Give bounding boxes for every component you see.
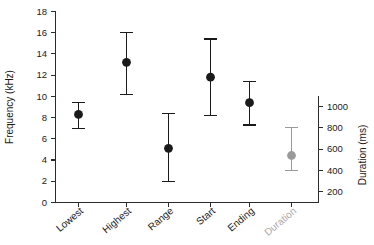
- right-tick-label-800: 800: [327, 122, 343, 133]
- left-tick-label-4: 4: [42, 154, 47, 165]
- chart-figure: 0 2 4 6 8 10 12 14 16 18 Frequency (kHz)…: [0, 0, 374, 245]
- right-tick-label-400: 400: [327, 165, 343, 176]
- left-axis-title: Frequency (kHz): [4, 70, 15, 144]
- marker-dot: [122, 58, 131, 67]
- left-tick-label-14: 14: [36, 48, 47, 59]
- left-tick-label-18: 18: [36, 6, 47, 17]
- left-tick-label-12: 12: [36, 69, 47, 80]
- right-axis-title: Duration (ms): [357, 125, 368, 186]
- left-tick-label-10: 10: [36, 91, 47, 102]
- marker-dot: [164, 144, 173, 153]
- left-tick-label-8: 8: [42, 112, 47, 123]
- right-tick-label-1000: 1000: [327, 101, 348, 112]
- left-tick-label-6: 6: [42, 133, 47, 144]
- chart-background: [0, 0, 374, 245]
- left-tick-label-16: 16: [36, 27, 47, 38]
- left-tick-label-0: 0: [42, 197, 47, 208]
- marker-dot: [74, 110, 83, 119]
- marker-dot: [245, 98, 254, 107]
- error-bar-chart: 0 2 4 6 8 10 12 14 16 18 Frequency (kHz)…: [0, 0, 374, 245]
- right-tick-label-600: 600: [327, 143, 343, 154]
- left-tick-label-2: 2: [42, 175, 47, 186]
- marker-dot: [287, 151, 296, 160]
- marker-dot: [206, 73, 215, 82]
- right-tick-label-200: 200: [327, 186, 343, 197]
